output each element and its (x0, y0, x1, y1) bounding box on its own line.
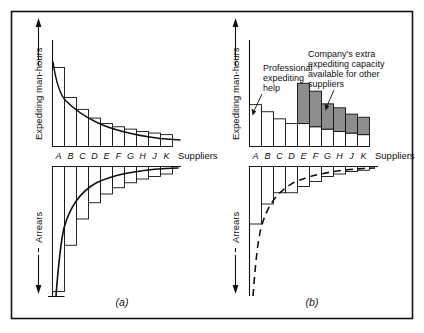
annotation-capacity-line-1: Company's extra (308, 49, 375, 59)
panel-a-top-bar-H (137, 131, 149, 146)
panel-b-caption: (b) (306, 296, 319, 308)
panel-b-top-label-J: J (348, 151, 354, 161)
panel-b-top-extra-bar-H (334, 108, 346, 132)
panel-b-bottom-bar-G (322, 167, 334, 177)
panel-a-top-label-H: H (139, 151, 146, 161)
panel-a-top-bar-J (149, 133, 161, 146)
panel-a-top-label-D: D (91, 151, 98, 161)
panel-b-top-base-bar-J (346, 133, 358, 146)
panel-b-top-base-bar-H (334, 131, 346, 146)
panel-b-top-label-E: E (300, 151, 307, 161)
panel-a-top-label-E: E (103, 151, 110, 161)
panel-b-top-extra-bar-E (298, 83, 310, 123)
panel-a-bottom-yaxis-label: Arrears (33, 212, 44, 243)
panel-a-bottom-bar-H (137, 167, 149, 180)
panel-b-top-base-bar-F (310, 127, 322, 147)
panel-a-top-label-B: B (67, 151, 73, 161)
annotation-professional-line-1: Professional (263, 63, 313, 73)
panel-b-bottom-bar-A (250, 167, 262, 225)
panel-a-top-label-A: A (54, 151, 61, 161)
panel-b-top-base-bar-E (298, 124, 310, 147)
panel-a-top-bar-K (161, 135, 173, 147)
panel-b-top-extra-bar-K (358, 117, 370, 134)
panel-b-top-base-bar-D (286, 124, 298, 147)
annotation-capacity-line-2: expediting capacity (308, 59, 385, 69)
panel-b-top-label-H: H (336, 151, 343, 161)
panel-b-top-yaxis-label: Expediting man-hours (230, 47, 241, 140)
panel-b-bottom-bar-F (310, 167, 322, 182)
panel-b-top-base-bar-G (322, 129, 334, 146)
panel-b-top-base-bar-K (358, 135, 370, 147)
figure-root: A B C D E F G H J K Suppliers Expediting… (0, 0, 424, 333)
panel-a-caption: (a) (116, 296, 129, 308)
panel-a-top-label-C: C (79, 151, 86, 161)
annotation-professional-line-3: help (263, 83, 280, 93)
expediting-arrears-figure: A B C D E F G H J K Suppliers Expediting… (0, 0, 424, 333)
panel-b-bottom-bar-B (262, 167, 274, 205)
panel-a-bottom-bar-F (113, 167, 125, 188)
panel-b-xaxis-label: Suppliers (375, 150, 415, 161)
panel-a-bottom-bar-B (65, 167, 77, 246)
panel-b-top-base-bar-B (262, 112, 274, 147)
panel-a-top-label-G: G (127, 151, 134, 161)
panel-a-top-label-F: F (116, 151, 122, 161)
panel-b-top-label-G: G (324, 151, 331, 161)
panel-b-top-extra-bar-F (310, 91, 322, 127)
panel-b-top-label-D: D (288, 151, 295, 161)
panel-b-top-label-C: C (276, 151, 283, 161)
panel-a-top-bar-A (53, 68, 65, 147)
panel-b-bottom-bar-E (298, 167, 310, 187)
panel-b-top-label-F: F (313, 151, 319, 161)
panel-a-bottom-bar-J (149, 167, 161, 177)
panel-b-top-base-bar-C (274, 119, 286, 147)
annotation-capacity-line-3: available for other (308, 69, 380, 79)
panel-b-top-label-K: K (360, 151, 367, 161)
panel-b-top-label-B: B (264, 151, 270, 161)
panel-a-top-label-J: J (151, 151, 157, 161)
panel-a-xaxis-label: Suppliers (178, 150, 218, 161)
annotation-capacity-line-4: suppliers (308, 79, 345, 89)
panel-b-top-label-A: A (251, 151, 258, 161)
panel-a-top-yaxis-label: Expediting man-hours (33, 47, 44, 140)
panel-a-top-label-K: K (163, 151, 170, 161)
panel-a-bottom-bar-G (125, 167, 137, 183)
panel-b-bottom-yaxis-label: Arrears (230, 212, 241, 243)
panel-a-top-bar-D (89, 118, 101, 146)
panel-b-top-extra-bar-J (346, 114, 358, 133)
panel-b-bottom-bar-D (286, 167, 298, 193)
panel-b-top-base-bar-A (250, 105, 262, 147)
annotation-professional-line-2: expediting (263, 73, 304, 83)
